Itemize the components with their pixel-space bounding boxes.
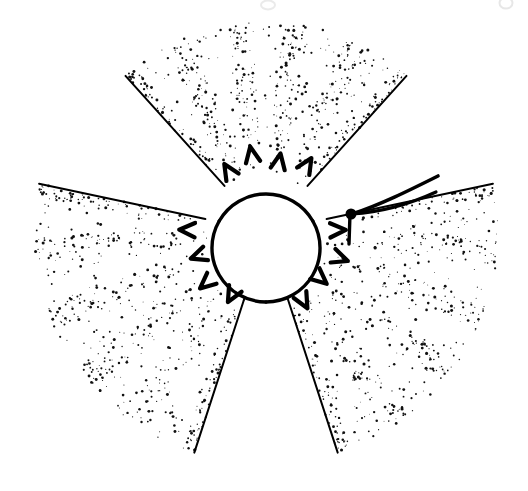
stipple-illustration [0,0,528,491]
illustration-canvas: Monochrome pen-and-ink stipple drawing o… [0,0,528,491]
filament-node [346,209,357,220]
